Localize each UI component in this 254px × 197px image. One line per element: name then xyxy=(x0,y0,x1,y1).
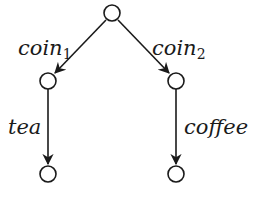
tree-diagram xyxy=(0,0,254,197)
node-right xyxy=(168,73,184,89)
label-coin1: coin1 xyxy=(18,38,72,61)
node-left-leaf xyxy=(40,166,56,182)
label-coin2: coin2 xyxy=(152,38,206,61)
node-left xyxy=(40,73,56,89)
label-tea: tea xyxy=(8,117,41,138)
node-right-leaf xyxy=(168,166,184,182)
label-coffee: coffee xyxy=(184,117,248,138)
node-root xyxy=(104,5,120,21)
